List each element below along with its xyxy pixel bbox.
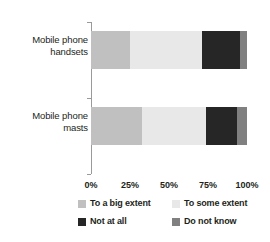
legend-swatch-do-not-know: [172, 218, 180, 226]
bar-segment: [91, 31, 130, 69]
legend-swatch-not-at-all: [78, 218, 86, 226]
y-axis-label-handsets: Mobile phone handsets: [6, 34, 88, 57]
y-axis-label-handsets-line2: handsets: [50, 46, 88, 57]
chart-legend: To a big extent To some extent Not at al…: [72, 198, 262, 234]
legend-label-not-at-all: Not at all: [90, 216, 127, 227]
bar-segment: [240, 31, 247, 69]
x-axis-tick-label: 25%: [121, 179, 139, 191]
bars-container: [91, 18, 247, 178]
bar-mobile-phone-handsets: [91, 31, 247, 69]
legend-item-not-at-all: Not at all: [78, 216, 127, 227]
legend-label-do-not-know: Do not know: [184, 216, 236, 227]
y-axis-label-masts-line2: masts: [63, 122, 88, 133]
y-axis-label-masts-line1: Mobile phone: [32, 110, 88, 121]
legend-label-to-some-extent: To some extent: [184, 198, 247, 209]
bar-segment: [142, 107, 206, 145]
x-axis-tick-label: 75%: [199, 179, 217, 191]
legend-item-do-not-know: Do not know: [172, 216, 236, 227]
y-axis-category-labels: Mobile phone handsets Mobile phone masts: [6, 18, 88, 178]
x-axis-tick-label: 0%: [84, 179, 97, 191]
x-axis-tick-label: 100%: [235, 179, 258, 191]
bar-segment: [91, 107, 142, 145]
legend-swatch-to-a-big-extent: [78, 200, 86, 208]
x-axis-tick-label: 50%: [160, 179, 178, 191]
plot-area: Mobile phone handsets Mobile phone masts: [0, 18, 270, 178]
bar-segment: [237, 107, 247, 145]
x-axis-tick-labels: 0%25%50%75%100%: [91, 179, 247, 193]
y-axis-label-masts: Mobile phone masts: [6, 110, 88, 133]
bar-segment: [202, 31, 240, 69]
bar-mobile-phone-masts: [91, 107, 247, 145]
stacked-bar-chart: Mobile phone handsets Mobile phone masts…: [0, 0, 270, 242]
bar-segment: [130, 31, 202, 69]
y-axis-label-handsets-line1: Mobile phone: [32, 34, 88, 45]
legend-swatch-to-some-extent: [172, 200, 180, 208]
legend-item-to-some-extent: To some extent: [172, 198, 247, 209]
legend-item-to-a-big-extent: To a big extent: [78, 198, 151, 209]
legend-label-to-a-big-extent: To a big extent: [90, 198, 151, 209]
bar-segment: [206, 107, 236, 145]
